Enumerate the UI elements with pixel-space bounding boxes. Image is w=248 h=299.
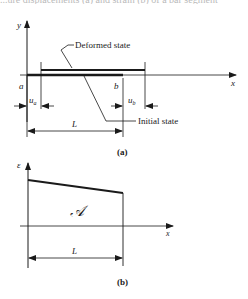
figure-canvas: y x Deformed state Initial state a b ua … — [0, 0, 248, 299]
strain-line — [28, 180, 123, 193]
x-axis-label-b: x — [165, 229, 170, 238]
area-label: 𝒜 — [70, 203, 89, 219]
point-b-label: b — [114, 81, 119, 91]
caption-a: (a) — [117, 147, 128, 157]
figure-b-labels: ε x 𝒜 L (b) — [17, 160, 170, 287]
figure-b — [20, 163, 173, 268]
y-axis-label-a: y — [16, 20, 21, 30]
deformed-leader — [61, 45, 74, 68]
figure-a-labels: y x Deformed state Initial state a b ua … — [16, 20, 235, 157]
caption-b: (b) — [117, 277, 128, 287]
deformed-state-label: Deformed state — [75, 40, 130, 50]
epsilon-axis-label: ε — [17, 160, 21, 170]
length-label-a: L — [71, 119, 77, 129]
x-axis-label-a: x — [230, 78, 235, 88]
initial-state-label: Initial state — [138, 116, 178, 126]
ua-label: ua — [29, 95, 37, 106]
point-a-label: a — [19, 81, 24, 91]
length-label-b: L — [71, 246, 77, 256]
ub-label: ub — [128, 95, 136, 106]
figure-a — [14, 21, 236, 137]
